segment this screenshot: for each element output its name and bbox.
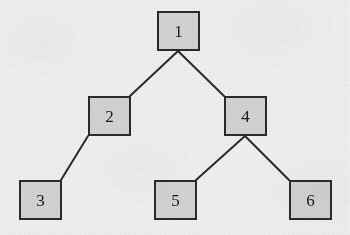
- tree-node-label: 6: [306, 191, 315, 208]
- tree-edge-4-6: [245, 136, 289, 180]
- tree-node-label: 3: [36, 191, 45, 208]
- tree-node-6[interactable]: 6: [289, 180, 332, 220]
- tree-edge-1-4: [178, 51, 224, 96]
- tree-edge-4-5: [196, 136, 245, 180]
- tree-node-label: 1: [174, 22, 183, 39]
- tree-edge-1-2: [130, 51, 178, 96]
- tree-node-label: 5: [171, 191, 180, 208]
- tree-node-4[interactable]: 4: [224, 96, 267, 136]
- tree-node-label: 2: [105, 107, 114, 124]
- tree-node-label: 4: [241, 107, 250, 124]
- tree-node-3[interactable]: 3: [19, 180, 62, 220]
- tree-node-1[interactable]: 1: [157, 11, 200, 51]
- tree-edge-2-3: [61, 136, 88, 180]
- tree-node-5[interactable]: 5: [154, 180, 197, 220]
- tree-node-2[interactable]: 2: [88, 96, 131, 136]
- tree-diagram-canvas: 124356: [0, 0, 350, 235]
